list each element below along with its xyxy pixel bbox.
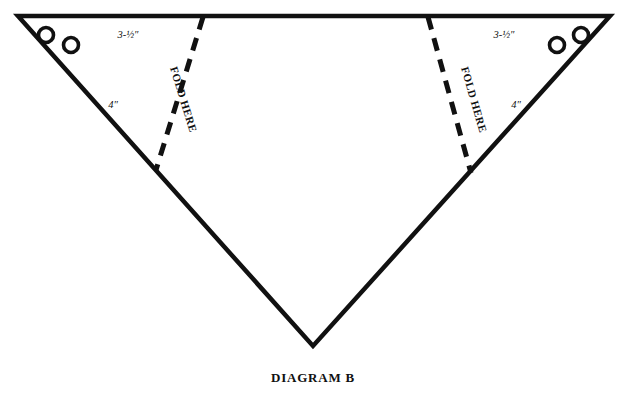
right-edge-dimension-label: 4″: [511, 99, 521, 110]
diagram-b-illustration: 3-½″ 3-½″ 4″ 4″ FOLD HERE FOLD HERE DIAG…: [0, 0, 627, 394]
diagram-page: 3-½″ 3-½″ 4″ 4″ FOLD HERE FOLD HERE DIAG…: [0, 0, 627, 394]
diagram-caption: DIAGRAM B: [271, 370, 355, 385]
top-left-dimension-label: 3-½″: [117, 29, 140, 40]
top-right-dimension-label: 3-½″: [493, 29, 516, 40]
left-edge-dimension-label: 4″: [108, 99, 118, 110]
